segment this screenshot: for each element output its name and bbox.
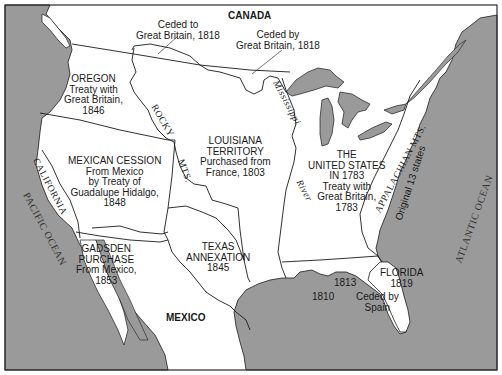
- label-title: LOUISIANA: [200, 136, 271, 147]
- territorial-expansion-map: CANADA Ceded to Great Britain, 1818 Cede…: [0, 0, 502, 375]
- label-line: From Mexico,: [76, 265, 137, 276]
- label-line: Ceded by: [356, 292, 399, 303]
- label-line: Great Britain, 1818: [136, 31, 220, 42]
- label-canada: CANADA: [228, 11, 271, 22]
- label-oregon: OREGON Treaty with Great Britain, 1846: [64, 74, 123, 116]
- label-title: OREGON: [64, 74, 123, 85]
- label-year: 1819: [380, 279, 423, 290]
- label-1813: 1813: [334, 278, 356, 289]
- label-louisiana: LOUISIANA TERRITORY Purchased from Franc…: [200, 136, 271, 178]
- label-line: Great Britain,: [308, 192, 385, 203]
- label-title: TEXAS: [186, 242, 250, 253]
- label-title: THE: [308, 150, 385, 161]
- label-1810: 1810: [312, 292, 334, 303]
- label-mexican-cession: MEXICAN CESSION From Mexico by Treaty of…: [68, 156, 161, 209]
- label-us-1783: THE UNITED STATES IN 1783 Treaty with Gr…: [308, 150, 385, 213]
- label-line: Ceded by: [236, 30, 320, 41]
- label-line: 1853: [76, 276, 137, 287]
- label-line: Great Britain, 1818: [236, 41, 320, 52]
- label-line: Purchased from: [200, 157, 271, 168]
- label-title: IN 1783: [308, 171, 385, 182]
- label-title: GADSDEN: [76, 244, 137, 255]
- label-line: by Treaty of: [68, 177, 161, 188]
- label-line: 1846: [64, 106, 123, 117]
- label-texas: TEXAS ANNEXATION 1845: [186, 242, 250, 274]
- label-line: Great Britain,: [64, 95, 123, 106]
- label-title: MEXICAN CESSION: [68, 156, 161, 167]
- label-ceded-by-gb: Ceded by Great Britain, 1818: [236, 30, 320, 51]
- label-title: FLORIDA: [380, 268, 423, 279]
- label-gadsden: GADSDEN PURCHASE From Mexico, 1853: [76, 244, 137, 286]
- label-line: Spain: [356, 303, 399, 314]
- label-mexico: MEXICO: [166, 313, 205, 324]
- label-florida: FLORIDA 1819: [380, 268, 423, 289]
- label-line: 1848: [68, 198, 161, 209]
- label-line: France, 1803: [200, 168, 271, 179]
- label-florida-ceded: Ceded by Spain: [356, 292, 399, 313]
- label-line: Ceded to: [136, 20, 220, 31]
- label-year: 1845: [186, 263, 250, 274]
- label-ceded-to-gb: Ceded to Great Britain, 1818: [136, 20, 220, 41]
